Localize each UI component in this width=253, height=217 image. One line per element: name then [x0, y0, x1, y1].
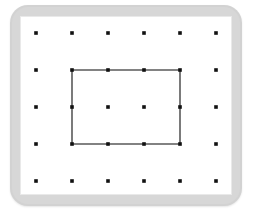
peg-r0-c3[interactable] [142, 31, 146, 35]
peg-r1-c0[interactable] [34, 68, 38, 72]
peg-r3-c2[interactable] [106, 142, 110, 146]
peg-layer [34, 31, 218, 183]
peg-r3-c5[interactable] [214, 142, 218, 146]
geoboard-canvas [0, 0, 253, 217]
peg-r1-c2[interactable] [106, 68, 110, 72]
peg-r1-c1[interactable] [70, 68, 74, 72]
peg-r3-c0[interactable] [34, 142, 38, 146]
peg-r4-c3[interactable] [142, 179, 146, 183]
peg-r4-c4[interactable] [178, 179, 182, 183]
peg-r4-c5[interactable] [214, 179, 218, 183]
shape-layer [72, 70, 180, 144]
peg-r4-c0[interactable] [34, 179, 38, 183]
shape-rectangle[interactable] [72, 70, 180, 144]
peg-r0-c1[interactable] [70, 31, 74, 35]
peg-r0-c2[interactable] [106, 31, 110, 35]
peg-r3-c3[interactable] [142, 142, 146, 146]
peg-r2-c0[interactable] [34, 105, 38, 109]
peg-r2-c5[interactable] [214, 105, 218, 109]
peg-r2-c2[interactable] [106, 105, 110, 109]
peg-r2-c3[interactable] [142, 105, 146, 109]
peg-r2-c1[interactable] [70, 105, 74, 109]
peg-r4-c2[interactable] [106, 179, 110, 183]
peg-r1-c5[interactable] [214, 68, 218, 72]
peg-r1-c4[interactable] [178, 68, 182, 72]
peg-r1-c3[interactable] [142, 68, 146, 72]
peg-r0-c4[interactable] [178, 31, 182, 35]
geoboard-figure [0, 0, 253, 217]
peg-r3-c1[interactable] [70, 142, 74, 146]
peg-r4-c1[interactable] [70, 179, 74, 183]
peg-r0-c5[interactable] [214, 31, 218, 35]
peg-r2-c4[interactable] [178, 105, 182, 109]
peg-r3-c4[interactable] [178, 142, 182, 146]
peg-r0-c0[interactable] [34, 31, 38, 35]
